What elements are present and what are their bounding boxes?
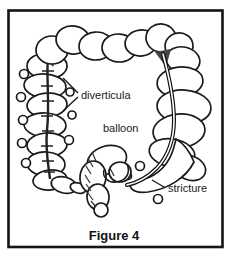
figure-caption: Figure 4 [89,228,140,243]
figure-4-illustration: diverticula balloon stricture Figure 4 [0,0,230,256]
stricture-label: stricture [168,182,207,194]
balloon-label: balloon [103,122,138,134]
diverticula-label: diverticula [81,89,131,101]
scanned-page: diverticula balloon stricture Figure 4 [0,0,230,256]
